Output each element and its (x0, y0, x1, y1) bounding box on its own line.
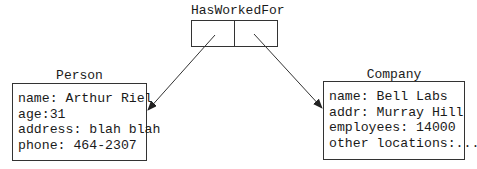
arrow-to-company (254, 34, 322, 108)
relationship-arrows (0, 0, 477, 169)
arrow-to-person (148, 35, 215, 110)
